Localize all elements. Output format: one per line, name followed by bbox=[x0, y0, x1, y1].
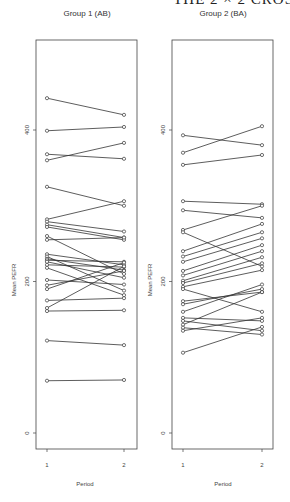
data-point bbox=[45, 266, 48, 269]
data-point bbox=[122, 344, 125, 347]
y-tick-label: 400 bbox=[24, 124, 30, 135]
data-point bbox=[260, 144, 263, 147]
series-line bbox=[183, 155, 262, 165]
data-point bbox=[181, 329, 184, 332]
data-point bbox=[260, 237, 263, 240]
data-point bbox=[122, 141, 125, 144]
series-line bbox=[183, 210, 262, 218]
y-tick-label: 400 bbox=[160, 124, 166, 135]
data-point bbox=[260, 244, 263, 247]
data-point bbox=[260, 291, 263, 294]
data-point bbox=[260, 231, 263, 234]
x-tick-label: 2 bbox=[260, 462, 264, 468]
data-point bbox=[260, 329, 263, 332]
data-point bbox=[45, 379, 48, 382]
data-point bbox=[181, 134, 184, 137]
x-tick-label: 2 bbox=[122, 462, 126, 468]
data-point bbox=[181, 310, 184, 313]
panel-title: Group 2 (BA) bbox=[199, 9, 246, 18]
axes: 020040012 bbox=[160, 124, 264, 468]
data-point bbox=[122, 378, 125, 381]
data-point bbox=[122, 230, 125, 233]
x-axis-label: Period bbox=[76, 481, 93, 487]
data-point bbox=[181, 200, 184, 203]
chart-area: Group 1 (AB) 020040012 Period Mean PEFR … bbox=[0, 0, 290, 502]
data-point bbox=[260, 153, 263, 156]
data-point bbox=[181, 274, 184, 277]
y-axis-label: Mean PEFR bbox=[11, 263, 17, 296]
data-point bbox=[260, 316, 263, 319]
series-line bbox=[183, 126, 262, 153]
data-lines bbox=[181, 125, 263, 355]
data-point bbox=[260, 256, 263, 259]
data-point bbox=[122, 204, 125, 207]
series-line bbox=[47, 154, 124, 159]
series-line bbox=[183, 135, 262, 145]
data-point bbox=[181, 151, 184, 154]
data-point bbox=[45, 278, 48, 281]
data-point bbox=[181, 260, 184, 263]
data-point bbox=[260, 250, 263, 253]
data-point bbox=[181, 287, 184, 290]
series-line bbox=[183, 321, 262, 331]
series-line bbox=[47, 238, 124, 240]
series-line bbox=[47, 187, 124, 206]
data-point bbox=[45, 284, 48, 287]
data-point bbox=[181, 163, 184, 166]
series-line bbox=[47, 143, 124, 160]
data-point bbox=[260, 216, 263, 219]
data-point bbox=[45, 153, 48, 156]
y-tick-label: 200 bbox=[24, 276, 30, 287]
y-tick-label: 200 bbox=[160, 276, 166, 287]
series-line bbox=[183, 201, 262, 204]
data-point bbox=[260, 333, 263, 336]
data-point bbox=[181, 250, 184, 253]
series-line bbox=[47, 280, 124, 285]
panel-group-2: Group 2 (BA) 020040012 Period Mean PEFR bbox=[147, 9, 273, 487]
series-line bbox=[183, 232, 262, 256]
series-line bbox=[47, 268, 124, 295]
series-line bbox=[183, 206, 262, 230]
series-line bbox=[47, 380, 124, 381]
series-line bbox=[183, 270, 262, 287]
series-line bbox=[47, 98, 124, 115]
series-line bbox=[47, 341, 124, 346]
data-point bbox=[181, 303, 184, 306]
data-point bbox=[122, 236, 125, 239]
data-point bbox=[260, 204, 263, 207]
data-point bbox=[122, 297, 125, 300]
series-line bbox=[47, 298, 124, 300]
data-point bbox=[45, 309, 48, 312]
data-point bbox=[181, 281, 184, 284]
data-point bbox=[181, 269, 184, 272]
series-line bbox=[47, 201, 124, 219]
data-point bbox=[122, 113, 125, 116]
data-point bbox=[45, 97, 48, 100]
data-point bbox=[260, 222, 263, 225]
data-point bbox=[45, 339, 48, 342]
data-point bbox=[122, 200, 125, 203]
data-point bbox=[45, 225, 48, 228]
data-point bbox=[122, 157, 125, 160]
y-tick-label: 0 bbox=[24, 431, 30, 435]
data-point bbox=[181, 231, 184, 234]
y-axis-label: Mean PEFR bbox=[147, 263, 153, 296]
data-point bbox=[45, 299, 48, 302]
data-point bbox=[45, 129, 48, 132]
series-line bbox=[183, 263, 262, 283]
x-tick-label: 1 bbox=[45, 462, 49, 468]
series-line bbox=[47, 127, 124, 131]
plot-frame bbox=[36, 40, 137, 449]
data-point bbox=[260, 269, 263, 272]
series-line bbox=[183, 257, 262, 280]
data-point bbox=[45, 287, 48, 290]
panel-group-1: Group 1 (AB) 020040012 Period Mean PEFR bbox=[11, 9, 137, 487]
data-point bbox=[260, 262, 263, 265]
data-point bbox=[181, 351, 184, 354]
y-tick-label: 0 bbox=[160, 431, 166, 435]
data-point bbox=[45, 234, 48, 237]
data-point bbox=[260, 125, 263, 128]
data-point bbox=[122, 276, 125, 279]
data-point bbox=[45, 159, 48, 162]
series-line bbox=[47, 266, 124, 308]
